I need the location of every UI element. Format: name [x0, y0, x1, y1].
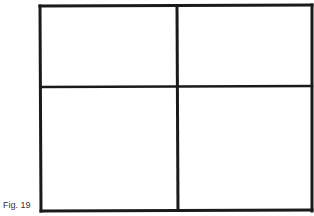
- four-pane-diagram: [0, 0, 314, 216]
- outer-box-left: [40, 6, 41, 211]
- figure-caption: Fig. 19: [3, 200, 31, 210]
- horizontal-divider: [41, 86, 312, 87]
- outer-box-bottom: [41, 210, 312, 211]
- vertical-divider: [177, 6, 178, 210]
